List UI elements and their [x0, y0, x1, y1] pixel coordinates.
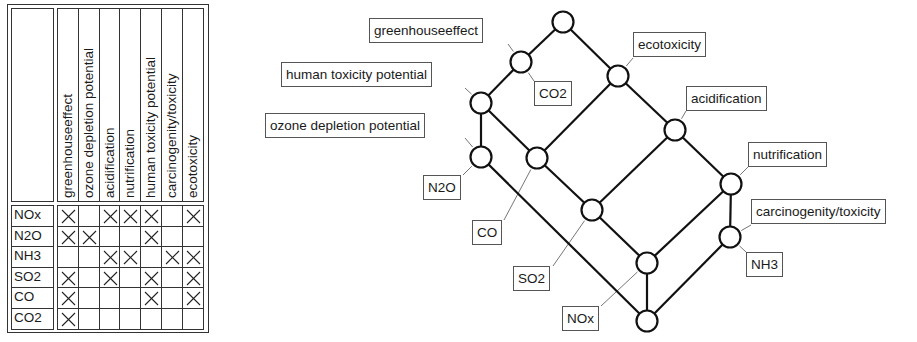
lattice-node-nh3: [720, 227, 741, 248]
lattice-node-bottom: [637, 311, 658, 332]
label-leader-line: [504, 169, 531, 220]
lattice-node-nox: [637, 253, 658, 274]
lattice-node-ozone: [471, 147, 492, 168]
lattice-label: ecotoxicity: [633, 32, 706, 57]
label-leader-line: [741, 225, 751, 231]
label-leader-line: [740, 167, 748, 175]
label-leader-line: [508, 44, 513, 51]
lattice-node-so2: [582, 200, 603, 221]
lattice-label: NOx: [562, 306, 599, 331]
lattice-label: greenhouseeffect: [369, 18, 483, 43]
lattice-label: CO2: [534, 81, 572, 106]
lattice-label: acidification: [686, 86, 767, 111]
lattice-edge: [618, 76, 675, 130]
label-leader-line: [463, 166, 472, 175]
lattice-label: NH3: [746, 252, 783, 277]
lattice-label: SO2: [513, 266, 550, 291]
lattice-node-acid: [665, 120, 686, 141]
lattice-label: ozone depletion potential: [265, 113, 425, 138]
lattice-node-top: [553, 12, 574, 33]
lattice-edge: [647, 237, 730, 321]
label-leader-line: [626, 58, 633, 66]
label-leader-line: [601, 272, 638, 306]
lattice-node-ecotox: [608, 66, 629, 87]
lattice-label: nutrification: [748, 142, 827, 167]
lattice-label: N2O: [423, 175, 461, 200]
lattice-edge: [647, 184, 731, 263]
lattice-node-nutri: [721, 174, 742, 195]
concept-lattice-diagram: [0, 0, 917, 342]
lattice-node-co: [527, 148, 548, 169]
lattice-edge: [675, 130, 731, 184]
label-leader-line: [465, 138, 473, 147]
lattice-node-greenhouse: [511, 52, 532, 73]
lattice-label: CO: [472, 220, 502, 245]
lattice-node-humantox: [471, 93, 492, 114]
lattice-edge: [592, 130, 675, 210]
lattice-label: human toxicity potential: [281, 62, 432, 87]
label-leader-line: [528, 73, 534, 81]
label-leader-line: [682, 111, 686, 119]
label-leader-line: [465, 88, 472, 94]
lattice-label: carcinogenity/toxicity: [751, 199, 886, 224]
